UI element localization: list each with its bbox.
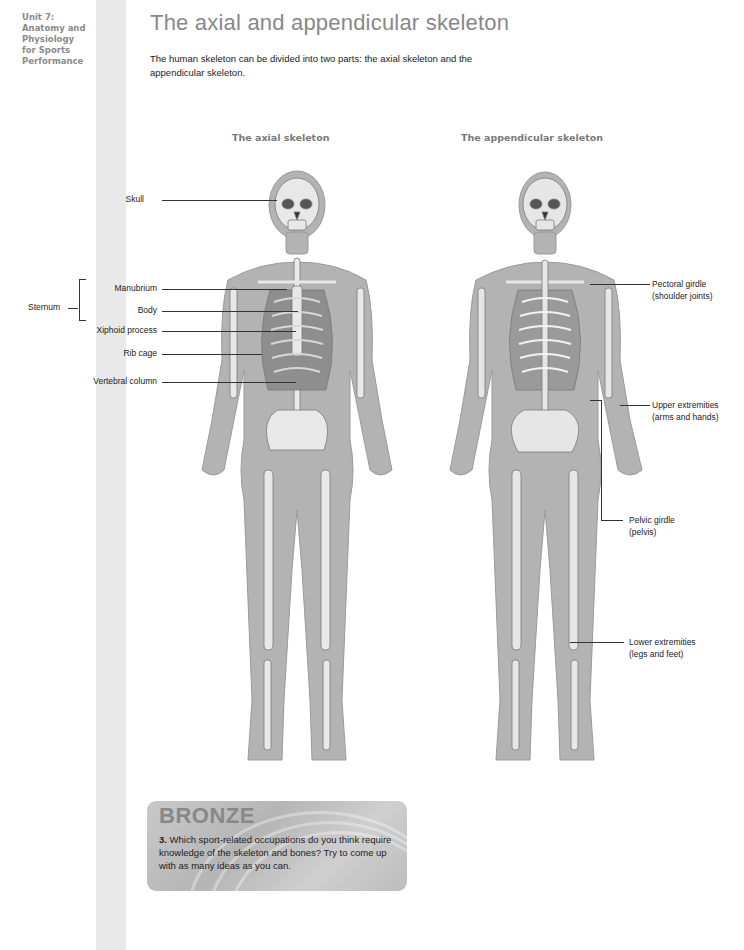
question-number: 3. xyxy=(159,834,167,845)
intro-text: The human skeleton can be divided into t… xyxy=(150,52,490,80)
question-text: Which sport-related occupations do you t… xyxy=(159,834,391,871)
leader-line-manubrium xyxy=(162,289,287,290)
label-lower-extremities: Lower extremities xyxy=(629,637,696,648)
leader-line-sternum xyxy=(68,308,78,309)
appendicular-figure-title: The appendicular skeleton xyxy=(461,132,603,143)
sternum-bracket-top xyxy=(79,279,86,280)
label-upper-extremities-sub: (arms and hands) xyxy=(652,412,719,423)
sternum-bracket-bottom xyxy=(79,320,86,321)
leader-line-rib-cage xyxy=(162,354,262,355)
unit-line: Unit 7: xyxy=(22,12,102,23)
label-body: Body xyxy=(138,305,157,316)
unit-line: for Sports xyxy=(22,45,102,56)
leader-line-vertebral-column xyxy=(162,382,296,383)
sidebar-band xyxy=(96,0,126,950)
unit-line: Anatomy and xyxy=(22,23,102,34)
bronze-heading: BRONZE xyxy=(159,803,255,829)
leader-line-lower-extremities xyxy=(570,642,624,643)
label-lower-extremities-sub: (legs and feet) xyxy=(629,649,683,660)
label-sternum: Sternum xyxy=(28,302,60,313)
unit-heading: Unit 7: Anatomy and Physiology for Sport… xyxy=(22,12,102,67)
label-manubrium: Manubrium xyxy=(114,283,157,294)
leader-line-upper-extremities xyxy=(620,405,650,406)
sternum-bracket xyxy=(79,279,80,321)
leader-line-pelvic xyxy=(601,520,623,521)
label-pectoral-girdle-sub: (shoulder joints) xyxy=(652,291,712,302)
bronze-activity-box: BRONZE 3. Which sport-related occupation… xyxy=(147,801,407,891)
label-rib-cage: Rib cage xyxy=(123,348,157,359)
leader-line-pectoral xyxy=(590,284,650,285)
leader-line-skull xyxy=(162,200,277,201)
appendicular-skeleton-illustration xyxy=(430,170,660,770)
bronze-question: 3. Which sport-related occupations do yo… xyxy=(159,833,399,872)
label-pectoral-girdle: Pectoral girdle xyxy=(652,279,706,290)
unit-line: Performance xyxy=(22,56,102,67)
label-xiphoid-process: Xiphoid process xyxy=(97,325,157,336)
unit-line: Physiology xyxy=(22,34,102,45)
page-title: The axial and appendicular skeleton xyxy=(150,10,509,36)
leader-line-pelvic-top xyxy=(590,400,601,401)
axial-figure-title: The axial skeleton xyxy=(232,132,329,143)
leader-line-body xyxy=(162,311,298,312)
label-upper-extremities: Upper extremities xyxy=(652,400,719,411)
label-pelvic-girdle-sub: (pelvis) xyxy=(629,527,656,538)
leader-line-xiphoid xyxy=(162,331,296,332)
axial-skeleton-illustration xyxy=(160,170,420,770)
label-skull: Skull xyxy=(126,194,144,205)
leader-line-pelvic-vertical xyxy=(601,400,602,520)
label-pelvic-girdle: Pelvic girdle xyxy=(629,515,675,526)
label-vertebral-column: Vertebral column xyxy=(93,376,157,387)
